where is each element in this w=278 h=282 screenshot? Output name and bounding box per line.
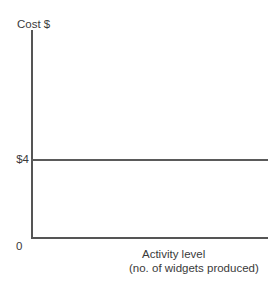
chart-figure: Cost $ $4 0 Activity level (no. of widge… <box>0 0 278 282</box>
x-axis-line <box>31 237 268 239</box>
x-axis-label: Activity level (no. of widgets produced) <box>129 247 259 275</box>
x-axis-label-line1: Activity level <box>142 247 259 261</box>
cost-series-line <box>31 159 268 161</box>
y-axis-label: Cost $ <box>17 18 50 31</box>
origin-tick-label: 0 <box>16 240 22 253</box>
y-tick-label-4: $4 <box>16 153 29 166</box>
x-axis-label-line2: (no. of widgets produced) <box>129 261 259 275</box>
y-axis-line <box>31 30 33 239</box>
